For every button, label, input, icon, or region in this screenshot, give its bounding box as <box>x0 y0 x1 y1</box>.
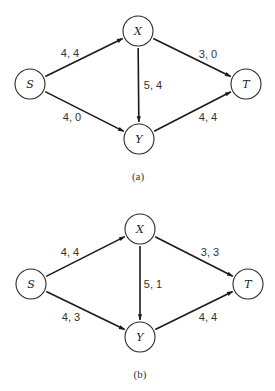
node-x: X <box>125 214 155 244</box>
edge-s-x-arrow <box>46 237 125 277</box>
node-y: Y <box>125 322 155 352</box>
edge-s-x-arrow <box>45 38 122 76</box>
edge-label-x-y: 5, 1 <box>144 278 162 290</box>
node-s: S <box>16 269 46 299</box>
edge-s-y-arrow <box>45 92 124 132</box>
node-label-s: S <box>26 78 34 91</box>
edge-y-t-arrow <box>154 92 231 131</box>
node-y: Y <box>124 124 154 154</box>
node-x: X <box>123 16 153 46</box>
node-s: S <box>15 69 45 99</box>
edge-x-t-arrow <box>155 237 233 277</box>
flow-network-figure: 4, 44, 05, 43, 04, 4 SXYT (a) 4, 44, 35,… <box>0 0 275 391</box>
caption-a: (a) <box>132 170 145 183</box>
edge-label-s-x: 4, 4 <box>61 246 79 258</box>
edge-y-t-arrow <box>155 291 232 329</box>
edge-label-x-t: 3, 0 <box>199 48 217 60</box>
edge-label-x-t: 3, 3 <box>201 246 219 258</box>
edge-x-y-arrow <box>138 48 139 122</box>
edge-label-y-t: 4, 4 <box>199 311 217 323</box>
edge-label-s-y: 4, 0 <box>63 111 81 123</box>
edge-s-y-arrow <box>46 291 124 329</box>
diagram-a: 4, 44, 05, 43, 04, 4 SXYT (a) <box>15 16 261 183</box>
node-t: T <box>231 69 261 99</box>
edge-label-s-y: 4, 3 <box>62 311 80 323</box>
node-label-x: X <box>133 25 143 38</box>
node-label-s: S <box>27 278 35 291</box>
edge-label-y-t: 4, 4 <box>199 111 217 123</box>
node-label-x: X <box>135 223 145 236</box>
edge-label-x-y: 5, 4 <box>144 79 162 91</box>
edge-x-t-arrow <box>153 38 230 76</box>
node-t: T <box>233 269 263 299</box>
diagram-b: 4, 44, 35, 13, 34, 4 SXYT (b) <box>16 214 263 381</box>
edge-label-s-x: 4, 4 <box>61 47 79 59</box>
caption-b: (b) <box>134 368 147 381</box>
